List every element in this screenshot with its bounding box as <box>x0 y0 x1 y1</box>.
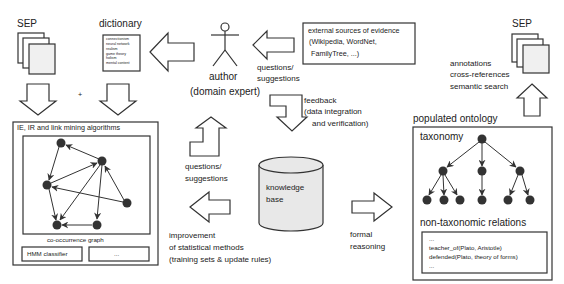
uses-line3: semantic search <box>450 82 508 92</box>
knowledge-base-line2: base <box>266 195 283 205</box>
feedback-line2: (data integration <box>304 107 362 117</box>
improvement-line3: (training sets & update rules) <box>169 255 271 265</box>
taxonomy-label: taxonomy <box>420 131 463 143</box>
sep-left-document-stack-icon <box>18 33 55 74</box>
relation-item: ... <box>429 234 518 243</box>
arrow-up-to-sep-icon <box>517 84 547 116</box>
knowledge-base-cylinder-icon <box>259 157 323 231</box>
co-occurrence-graph-label: co-occurrence graph <box>47 236 104 243</box>
external-sources-line3: FamilyTree, ...) <box>311 50 359 59</box>
co-occurrence-graph-box <box>23 136 150 234</box>
arrow-down-feedback-icon <box>270 95 307 131</box>
author-stick-figure-icon <box>211 23 239 66</box>
knowledge-base-line1: knowledge <box>266 183 304 193</box>
diagram-canvas: SEP dictionary connectionism neural netw… <box>0 0 564 284</box>
author-sublabel: (domain expert) <box>190 86 260 98</box>
relations-list: ... teacher_of(Plato, Aristotle) defende… <box>429 234 518 270</box>
external-sources-line1: external sources of evidence <box>308 27 400 36</box>
feedback-line3: and verification) <box>312 119 368 129</box>
uses-line2: cross-references <box>450 70 510 80</box>
sep-right-label: SEP <box>512 18 532 30</box>
relations-label: non-taxonomic relations <box>420 217 526 229</box>
ontology-title: populated ontology <box>413 113 498 125</box>
feedback-line1: feedback <box>304 96 336 106</box>
arrow-left-improvement-icon <box>190 192 230 222</box>
top-questions-line1: questions/ <box>257 63 293 73</box>
relation-item: ... <box>429 261 518 270</box>
dictionary-label: dictionary <box>99 18 142 30</box>
other-module-label: ... <box>114 250 119 257</box>
uses-line1: annotations <box>450 59 491 69</box>
arrow-up-to-author-icon <box>189 117 230 156</box>
sep-left-label: SEP <box>17 18 37 30</box>
arrow-down-from-sep-icon <box>20 84 56 115</box>
author-label: author <box>209 71 237 83</box>
mid-questions-line2: suggestions <box>185 174 228 184</box>
mid-questions-line1: questions/ <box>185 162 221 172</box>
arrow-right-formal-reasoning-icon <box>352 193 392 221</box>
relation-item: defended(Plato, theory of forms) <box>429 252 518 261</box>
plus-sign: + <box>78 91 82 100</box>
hmm-classifier-label: HMM classifier <box>27 250 68 257</box>
formal-reasoning-line2: reasoning <box>350 242 385 252</box>
arrow-down-from-dictionary-icon <box>100 84 136 115</box>
arrow-left-to-author-icon <box>253 31 294 59</box>
improvement-line1: improvement <box>169 231 215 241</box>
arrow-left-to-dictionary-icon <box>150 33 194 71</box>
formal-reasoning-line1: formal <box>350 230 372 240</box>
sep-right-document-stack-icon <box>512 34 549 73</box>
top-questions-line2: suggestions <box>257 74 300 84</box>
improvement-line2: of statistical methods <box>169 243 244 253</box>
dictionary-term: mental content <box>106 61 130 66</box>
algorithms-title: IE, IR and link mining algorithms <box>17 124 120 133</box>
dictionary-terms: connectionism neural network realism gam… <box>106 37 130 66</box>
external-sources-line2: (Wikipedia, WordNet, <box>309 38 377 47</box>
relation-item: teacher_of(Plato, Aristotle) <box>429 243 518 252</box>
